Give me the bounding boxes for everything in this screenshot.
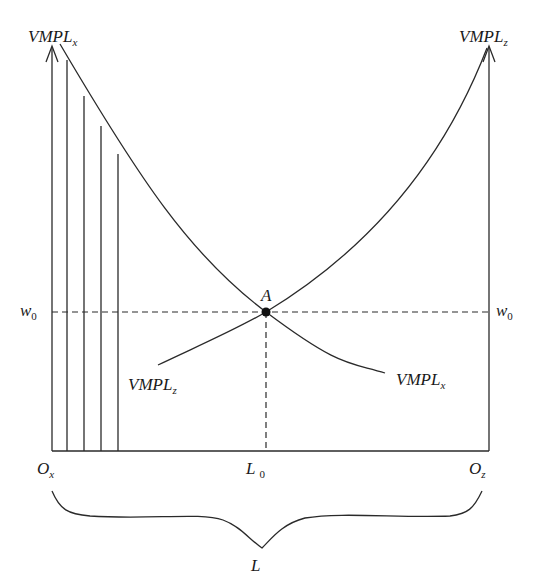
total-labor-brace: [52, 491, 482, 548]
wage-right-label-main: w: [496, 301, 507, 320]
left-axis-label: VMPLx: [28, 28, 77, 48]
equilibrium-point-a: [262, 308, 271, 317]
origin-x-label-main: O: [37, 459, 49, 478]
origin-z-label-main: O: [469, 459, 481, 478]
l0-label-main: L: [246, 459, 255, 478]
right-axis-label-main: VMPL: [459, 27, 503, 46]
vmpl-z-curve-label-sub: z: [172, 384, 176, 396]
left-axis-label-main: VMPL: [28, 27, 72, 46]
right-axis-label: VMPLz: [459, 28, 508, 48]
vmpl-x-curve-label-main: VMPL: [396, 370, 440, 389]
vmpl-x-curve-label-sub: x: [440, 379, 445, 391]
vmpl-x-curve: [60, 44, 385, 373]
origin-x-label: Ox: [37, 460, 54, 480]
wage-left-label-main: w: [20, 301, 31, 320]
wage-right-label-sub: 0: [507, 310, 513, 322]
l0-label: L0: [246, 460, 265, 480]
left-axis-label-sub: x: [72, 36, 77, 48]
right-axis-label-sub: z: [503, 36, 507, 48]
vmpl-z-curve-label: VMPLz: [128, 376, 177, 396]
vmpl-z-curve-label-main: VMPL: [128, 375, 172, 394]
l0-label-sub: 0: [259, 468, 265, 480]
origin-z-label: Oz: [469, 460, 486, 480]
point-a-label: A: [261, 287, 271, 304]
origin-x-label-sub: x: [49, 468, 54, 480]
vmpl-z-curve: [158, 48, 487, 365]
total-labor-label: L: [251, 557, 260, 574]
origin-z-label-sub: z: [481, 468, 485, 480]
wage-left-label-sub: 0: [31, 310, 37, 322]
wage-left-label: w0: [20, 302, 37, 322]
vmpl-x-curve-label: VMPLx: [396, 371, 445, 391]
wage-right-label: w0: [496, 302, 513, 322]
